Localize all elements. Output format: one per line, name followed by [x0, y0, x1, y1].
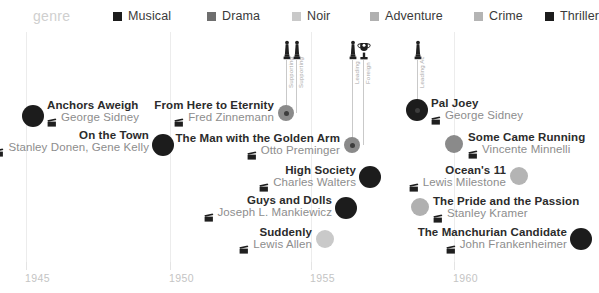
- film-director-row: Fred Zinnemann: [154, 111, 274, 123]
- film-director-row: Joseph L. Mankiewicz: [204, 206, 333, 218]
- film-dot-award-core: [415, 108, 420, 113]
- film-director-row: George Sidney: [47, 111, 139, 123]
- film-director-row: John Frankenheimer: [418, 238, 567, 250]
- golden-globe-trophy-icon[interactable]: [357, 40, 371, 60]
- legend-item-label: Adventure: [385, 9, 443, 23]
- film-director: George Sidney: [445, 109, 523, 121]
- legend-swatch-icon: [474, 12, 483, 21]
- film-entry[interactable]: The Manchurian CandidateJohn Frankenheim…: [418, 226, 567, 250]
- film-entry[interactable]: Guys and DollsJoseph L. Mankiewicz: [204, 194, 333, 218]
- film-dot[interactable]: [411, 198, 429, 216]
- film-director-row: George Sidney: [431, 109, 523, 121]
- film-dot-award-core: [350, 143, 355, 148]
- axis-label-1945: 1945: [25, 272, 50, 284]
- film-entry[interactable]: SuddenlyLewis Allen: [239, 226, 312, 250]
- film-director-row: Vincente Minnelli: [468, 143, 585, 155]
- clapperboard-icon: [446, 240, 456, 249]
- film-title: Anchors Aweigh: [47, 99, 139, 111]
- clapperboard-icon: [409, 178, 419, 187]
- film-director: Lewis Milestone: [423, 176, 506, 188]
- film-director-row: Charles Walters: [259, 176, 356, 188]
- award-category-label: Leading: [354, 61, 360, 84]
- film-director: Stanley Donen, Gene Kelly: [8, 141, 149, 153]
- film-dot[interactable]: [316, 230, 334, 248]
- legend-item-thriller[interactable]: Thriller: [545, 9, 599, 23]
- film-director-row: Lewis Allen: [239, 238, 312, 250]
- genre-legend: genre MusicalDramaNoirAdventureCrimeThri…: [0, 0, 596, 30]
- film-dot[interactable]: [445, 135, 463, 153]
- film-entry[interactable]: Anchors AweighGeorge Sidney: [47, 99, 139, 123]
- legend-swatch-icon: [207, 12, 216, 21]
- film-entry[interactable]: Pal JoeyGeorge Sidney: [431, 97, 523, 121]
- legend-item-crime[interactable]: Crime: [474, 9, 523, 23]
- award-category-label: Supporting: [288, 57, 294, 88]
- film-director-row: Stanley Donen, Gene Kelly: [0, 141, 149, 153]
- film-director: Vincente Minnelli: [482, 143, 570, 155]
- legend-item-noir[interactable]: Noir: [292, 9, 330, 23]
- film-dot-award-core: [284, 111, 289, 116]
- axis-tick-1950: [170, 262, 171, 270]
- film-title: Pal Joey: [431, 97, 523, 109]
- film-dot[interactable]: [152, 134, 174, 156]
- clapperboard-icon: [247, 146, 257, 155]
- film-dot[interactable]: [510, 167, 528, 185]
- clapperboard-icon: [431, 111, 441, 120]
- film-director-row: Otto Preminger: [175, 144, 340, 156]
- axis-tick-1945: [26, 262, 27, 270]
- film-entry[interactable]: The Man with the Golden ArmOtto Preminge…: [175, 132, 340, 156]
- legend-title: genre: [33, 8, 70, 24]
- legend-item-musical[interactable]: Musical: [113, 9, 171, 23]
- axis-label-1950: 1950: [169, 272, 194, 284]
- award-stem: [363, 60, 364, 145]
- film-title: Guys and Dolls: [204, 194, 333, 206]
- film-entry[interactable]: On the TownStanley Donen, Gene Kelly: [0, 129, 149, 153]
- legend-swatch-icon: [113, 12, 122, 21]
- film-dot[interactable]: [570, 228, 592, 250]
- film-title: High Society: [259, 164, 356, 176]
- legend-item-drama[interactable]: Drama: [207, 9, 260, 23]
- legend-item-label: Drama: [222, 9, 260, 23]
- film-entry[interactable]: The Pride and the PassionStanley Kramer: [433, 195, 579, 219]
- film-director-row: Lewis Milestone: [409, 176, 506, 188]
- award-stem: [352, 60, 353, 145]
- clapperboard-icon: [433, 209, 443, 218]
- clapperboard-icon: [0, 143, 4, 152]
- film-director-row: Stanley Kramer: [433, 207, 579, 219]
- film-entry[interactable]: High SocietyCharles Walters: [259, 164, 356, 188]
- clapperboard-icon: [259, 178, 269, 187]
- film-director: Otto Preminger: [261, 144, 340, 156]
- film-dot[interactable]: [335, 197, 357, 219]
- legend-item-label: Crime: [489, 9, 523, 23]
- legend-swatch-icon: [292, 12, 301, 21]
- film-title: Suddenly: [239, 226, 312, 238]
- award-stem: [296, 60, 297, 113]
- axis-tick-1955: [311, 262, 312, 270]
- film-entry[interactable]: From Here to EternityFred Zinnemann: [154, 99, 274, 123]
- award-category-label: Foreign: [365, 62, 371, 84]
- legend-item-adventure[interactable]: Adventure: [370, 9, 443, 23]
- legend-item-label: Noir: [307, 9, 330, 23]
- axis-tick-1960: [454, 262, 455, 270]
- award-category-label: Leading Ac: [419, 56, 425, 88]
- film-title: The Pride and the Passion: [433, 195, 579, 207]
- legend-item-label: Thriller: [560, 9, 599, 23]
- film-director: Stanley Kramer: [447, 207, 528, 219]
- film-entry[interactable]: Ocean's 11Lewis Milestone: [409, 164, 506, 188]
- film-entry[interactable]: Some Came RunningVincente Minnelli: [468, 131, 585, 155]
- award-category-label: Supporting: [298, 57, 304, 88]
- film-director: Charles Walters: [273, 176, 356, 188]
- axis-label-1955: 1955: [310, 272, 335, 284]
- film-director: John Frankenheimer: [460, 238, 567, 250]
- axis-label-1960: 1960: [453, 272, 478, 284]
- clapperboard-icon: [47, 113, 57, 122]
- film-dot[interactable]: [359, 166, 381, 188]
- clapperboard-icon: [468, 145, 478, 154]
- film-title: The Manchurian Candidate: [418, 226, 567, 238]
- film-dot[interactable]: [22, 105, 44, 127]
- clapperboard-icon: [239, 240, 249, 249]
- film-title: On the Town: [0, 129, 149, 141]
- clapperboard-icon: [204, 208, 214, 217]
- film-title: The Man with the Golden Arm: [175, 132, 340, 144]
- film-title: Ocean's 11: [409, 164, 506, 176]
- film-director: Lewis Allen: [253, 238, 312, 250]
